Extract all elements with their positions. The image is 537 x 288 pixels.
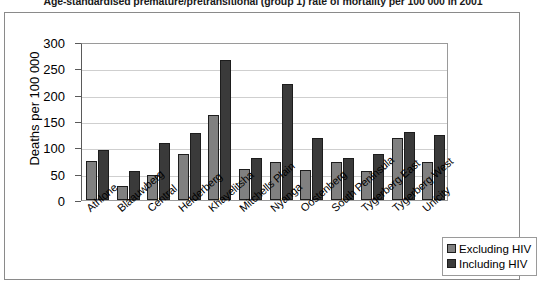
bar	[282, 84, 293, 200]
bar-group	[113, 44, 144, 200]
y-tick-label: 150	[5, 116, 65, 129]
figure-frame: Deaths per 100 000 300250200150100500 At…	[4, 12, 520, 280]
legend-item: Including HIV	[447, 256, 531, 271]
y-tick-label: 50	[5, 168, 65, 181]
legend-label: Including HIV	[459, 258, 527, 270]
y-tick-label: 300	[5, 37, 65, 50]
legend-label: Excluding HIV	[459, 243, 531, 255]
bar-group	[82, 44, 113, 200]
chart-title: Age-standardised premature/pretransition…	[0, 0, 526, 8]
y-tick-label: 0	[5, 195, 65, 208]
bar-group	[174, 44, 205, 200]
legend-swatch-icon	[447, 259, 456, 268]
y-tick-label: 250	[5, 63, 65, 76]
y-tick-label: 100	[5, 142, 65, 155]
y-axis-title: Deaths per 100 000	[27, 34, 42, 184]
bar	[178, 154, 189, 200]
bar-group	[296, 44, 327, 200]
y-tick-mark	[75, 201, 81, 202]
legend-item: Excluding HIV	[447, 241, 531, 256]
y-tick-label: 200	[5, 89, 65, 102]
legend-swatch-icon	[447, 244, 456, 253]
chart-legend: Excluding HIVIncluding HIV	[442, 237, 537, 276]
